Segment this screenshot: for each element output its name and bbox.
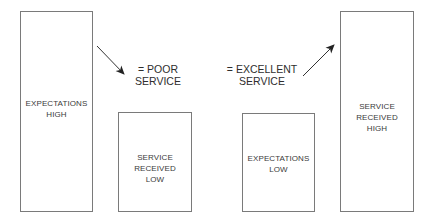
- arrow-up-right-icon: [303, 45, 334, 76]
- arrows-layer: [0, 0, 431, 222]
- arrow-down-right-icon: [97, 46, 124, 74]
